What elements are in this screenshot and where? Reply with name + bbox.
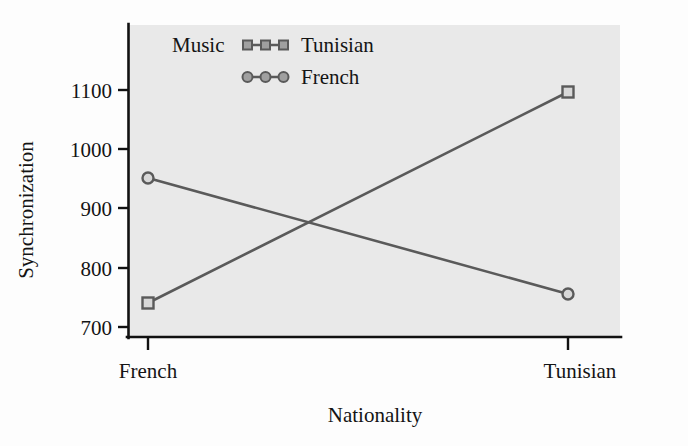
legend-label-tunisian: Tunisian — [301, 33, 374, 57]
x-tick-label-french: French — [119, 359, 178, 383]
circle-marker — [243, 72, 253, 82]
square-marker — [279, 41, 288, 50]
circle-marker — [261, 72, 271, 82]
square-marker — [261, 41, 270, 50]
legend-label-french: French — [301, 65, 360, 89]
y-tick-label-700: 700 — [81, 316, 113, 340]
chart-figure: 1100 1000 900 800 700 French Tunisian Na… — [0, 0, 688, 446]
circle-marker — [279, 72, 289, 82]
plot-area-background — [128, 25, 620, 337]
y-tick-label-900: 900 — [81, 197, 113, 221]
x-tick-label-tunisian: Tunisian — [544, 359, 617, 383]
circle-marker — [563, 289, 574, 300]
legend-title: Music — [172, 33, 225, 57]
y-tick-label-800: 800 — [81, 257, 113, 281]
interaction-plot-svg: 1100 1000 900 800 700 French Tunisian Na… — [0, 0, 688, 446]
y-tick-label-1000: 1000 — [70, 138, 112, 162]
square-marker — [243, 41, 252, 50]
square-marker — [563, 87, 574, 98]
circle-marker — [143, 173, 154, 184]
y-tick-label-1100: 1100 — [71, 79, 112, 103]
x-axis-title: Nationality — [328, 403, 423, 427]
y-axis-title: Synchronization — [14, 141, 38, 279]
square-marker — [143, 298, 154, 309]
